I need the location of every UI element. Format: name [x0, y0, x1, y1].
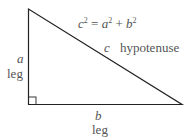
- hypotenuse-label: hypotenuse: [120, 40, 179, 55]
- side-b-symbol: b: [95, 108, 102, 123]
- side-a-symbol: a: [17, 51, 24, 66]
- formula: c2 = a2 + b2: [78, 16, 136, 31]
- side-b-label: leg: [92, 122, 108, 137]
- hypotenuse-symbol: c: [104, 40, 110, 55]
- right-angle-marker: [29, 97, 37, 105]
- right-triangle-diagram: c2 = a2 + b2 c hypotenuse a leg b leg: [0, 0, 186, 140]
- side-a-label: leg: [7, 66, 23, 81]
